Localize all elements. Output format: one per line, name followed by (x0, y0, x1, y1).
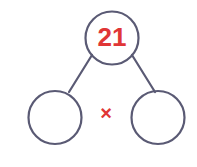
child-node-circle-left[interactable] (29, 91, 82, 144)
branch-line-right (132, 55, 155, 92)
number-bond-diagram: 21 × (0, 0, 197, 167)
child-node-circle-right[interactable] (132, 91, 185, 144)
multiplication-operator-symbol: × (100, 102, 112, 124)
branch-line-left (69, 55, 92, 92)
diagram-canvas: 21 × (0, 0, 197, 167)
parent-node-value: 21 (98, 22, 127, 52)
